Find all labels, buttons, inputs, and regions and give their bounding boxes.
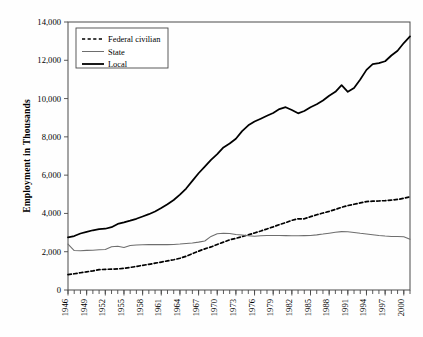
line-chart: 02,0004,0006,0008,00010,00012,00014,000 … — [0, 0, 423, 337]
y-tick-label: 10,000 — [37, 94, 61, 104]
y-tick-label: 12,000 — [37, 55, 61, 65]
x-tick-label: 1997 — [377, 298, 387, 316]
y-tick-label: 2,000 — [42, 247, 61, 257]
x-tick-label: 1955 — [116, 299, 126, 316]
y-tick-label: 0 — [57, 285, 61, 295]
y-axis: 02,0004,0006,0008,00010,00012,00014,000 — [37, 17, 68, 295]
x-tick-label: 1973 — [228, 299, 238, 316]
y-tick-label: 8,000 — [42, 132, 61, 142]
x-tick-label: 1982 — [284, 299, 294, 316]
x-tick-label: 1964 — [172, 298, 182, 316]
x-tick-label: 1946 — [60, 298, 70, 316]
x-tick-label: 1958 — [135, 299, 145, 316]
y-tick-label: 6,000 — [42, 170, 61, 180]
legend-label-state: State — [108, 48, 125, 57]
x-tick-label: 1976 — [247, 298, 257, 316]
legend-label-federal-civilian: Federal civilian — [108, 35, 161, 44]
chart-figure: 02,0004,0006,0008,00010,00012,00014,000 … — [0, 0, 423, 337]
y-tick-label: 4,000 — [42, 208, 61, 218]
series-line-federal-civilian — [68, 197, 410, 275]
x-tick-label: 1988 — [321, 299, 331, 316]
x-axis: 1946194919521955195819611964196719701973… — [60, 290, 410, 316]
x-tick-label: 1991 — [340, 299, 350, 316]
y-axis-title: Employment in Thousands — [22, 99, 32, 213]
series-group — [68, 36, 410, 274]
series-line-state — [68, 232, 410, 251]
x-tick-label: 1949 — [79, 299, 89, 316]
x-tick-label: 2000 — [396, 299, 406, 316]
x-tick-label: 1979 — [265, 299, 275, 316]
legend-label-local: Local — [108, 60, 128, 69]
x-tick-label: 1985 — [303, 299, 313, 316]
y-tick-label: 14,000 — [37, 17, 61, 27]
x-tick-label: 1967 — [191, 298, 201, 316]
x-tick-label: 1952 — [97, 299, 107, 316]
x-tick-label: 1970 — [209, 299, 219, 316]
chart-legend: Federal civilianStateLocal — [76, 28, 168, 69]
x-tick-label: 1961 — [153, 299, 163, 316]
x-tick-label: 1994 — [358, 298, 368, 316]
